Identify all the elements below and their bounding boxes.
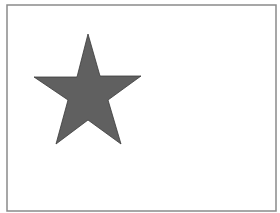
diagram-canvas xyxy=(0,0,280,213)
frame-border xyxy=(7,5,276,211)
diagram-svg xyxy=(0,0,280,213)
